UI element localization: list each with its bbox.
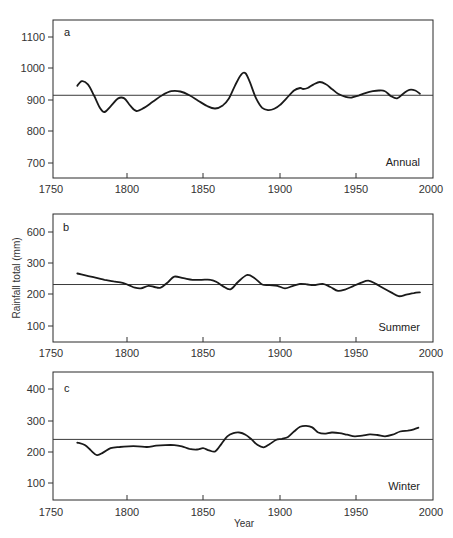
x-tick-label: 1950 xyxy=(344,183,368,195)
y-tick-label: 600 xyxy=(27,226,45,238)
x-tick-label: 1950 xyxy=(344,506,368,518)
panel-annual-frame xyxy=(53,20,433,178)
y-tick-label: 300 xyxy=(27,257,45,269)
panel-annual-title: Annual xyxy=(386,156,420,168)
panel-annual: 1100 1000 900 800 700 1750 1800 1850 190… xyxy=(21,20,444,195)
panel-annual-y-ticks: 1100 1000 900 800 700 xyxy=(21,31,53,169)
panel-winter-y-ticks: 400 300 200 100 xyxy=(27,383,53,489)
x-tick-label: 1850 xyxy=(191,347,215,359)
panel-winter-letter: c xyxy=(64,382,70,394)
x-tick-label: 1800 xyxy=(115,183,139,195)
panel-winter: 400 300 200 100 1750 1800 1850 1900 1950… xyxy=(27,372,444,518)
x-tick-label: 2000 xyxy=(419,183,443,195)
x-tick-label: 1800 xyxy=(115,347,139,359)
rainfall-figure: 1100 1000 900 800 700 1750 1800 1850 190… xyxy=(0,0,453,538)
x-tick-label: 1900 xyxy=(268,347,292,359)
x-tick-label: 1850 xyxy=(191,183,215,195)
panel-winter-title: Winter xyxy=(388,480,420,492)
x-tick-label: 1800 xyxy=(115,506,139,518)
panel-winter-frame xyxy=(53,372,433,500)
x-tick-label: 1850 xyxy=(191,506,215,518)
x-tick-label: 1750 xyxy=(39,347,63,359)
y-tick-label: 1100 xyxy=(21,31,45,43)
x-tick-label: 1900 xyxy=(268,183,292,195)
x-tick-label: 2000 xyxy=(419,347,443,359)
x-tick-label: 1750 xyxy=(39,506,63,518)
panel-summer: 600 300 200 100 1750 1800 1850 1900 1950… xyxy=(27,214,444,359)
panel-winter-x-ticks: 1750 1800 1850 1900 1950 2000 xyxy=(39,495,443,518)
x-tick-label: 2000 xyxy=(419,506,443,518)
panel-summer-title: Summer xyxy=(378,321,420,333)
x-tick-label: 1900 xyxy=(268,506,292,518)
y-tick-label: 400 xyxy=(27,383,45,395)
y-tick-label: 1000 xyxy=(21,62,45,74)
panel-summer-letter: b xyxy=(63,221,69,233)
y-tick-label: 300 xyxy=(27,415,45,427)
y-tick-label: 800 xyxy=(27,125,45,137)
panel-summer-x-ticks: 1750 1800 1850 1900 1950 2000 xyxy=(39,337,443,359)
y-tick-label: 700 xyxy=(27,157,45,169)
panel-annual-series-line xyxy=(77,73,420,112)
x-tick-label: 1750 xyxy=(39,183,63,195)
panel-summer-y-ticks: 600 300 200 100 xyxy=(27,226,53,332)
panel-winter-series-line xyxy=(77,426,418,455)
y-axis-title: Rainfall total (mm) xyxy=(11,237,22,318)
panel-annual-x-ticks: 1750 1800 1850 1900 1950 2000 xyxy=(39,173,443,195)
y-tick-label: 200 xyxy=(27,446,45,458)
y-tick-label: 100 xyxy=(27,477,45,489)
y-tick-label: 200 xyxy=(27,288,45,300)
x-tick-label: 1950 xyxy=(344,347,368,359)
x-axis-title: Year xyxy=(234,518,255,529)
y-tick-label: 100 xyxy=(27,320,45,332)
y-tick-label: 900 xyxy=(27,94,45,106)
panel-annual-letter: a xyxy=(64,26,71,38)
